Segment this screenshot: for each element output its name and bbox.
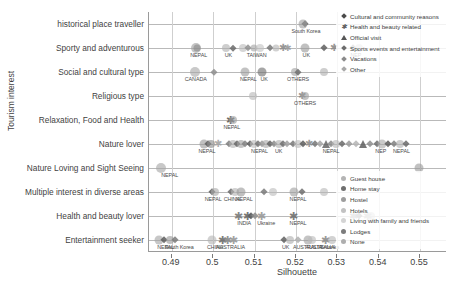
diamond-marker-icon — [339, 44, 348, 53]
point-label-22: NEPAL — [290, 196, 307, 202]
x-axis-tick-label-2: 0.51 — [245, 257, 263, 267]
legend-item-accommodation-type-5[interactable]: Lodges — [339, 226, 455, 237]
point-label-4: UK — [303, 52, 310, 58]
legend-item-purpose-of-visit-4[interactable]: Vacations — [339, 53, 455, 64]
legend-item-label: Other — [350, 65, 365, 74]
legend-item-accommodation-type-2[interactable]: Hostel — [339, 194, 455, 205]
gridline-vertical — [213, 12, 214, 251]
circle-marker-icon — [339, 227, 348, 236]
point-label-9: OTHERS — [287, 76, 309, 82]
circle-marker-icon — [339, 206, 348, 215]
x-axis-tick-label-1: 0.5 — [206, 257, 219, 267]
legend-item-accommodation-type-4[interactable]: Living with family and friends — [339, 215, 455, 226]
point-label-3: TAIWAN — [247, 52, 267, 58]
point-label-25: NEPAL — [290, 220, 307, 226]
y-axis-label-1: Sporty and adventurous — [2, 44, 148, 53]
legend-item-accommodation-type-0[interactable]: Guest house — [339, 173, 455, 184]
gridline-horizontal — [149, 120, 446, 121]
x-axis-tick-label-6: 0.55 — [410, 257, 428, 267]
x-axis-tick-label-4: 0.53 — [328, 257, 346, 267]
legend-item-label: Sports events and entertainment — [350, 44, 439, 53]
point-label-29: AUSTRALIA — [216, 244, 245, 250]
legend-item-label: Health and beauty related — [350, 22, 421, 31]
x-axis-tick-label-0: 0.49 — [162, 257, 180, 267]
star-marker-icon: ✱ — [339, 22, 348, 31]
gridline-horizontal — [149, 168, 446, 169]
legend-item-accommodation-type-1[interactable]: Home stay — [339, 184, 455, 195]
legend-item-label: Hotels — [350, 206, 368, 215]
y-axis-label-0: historical place traveller — [2, 20, 148, 29]
point-label-18: NEPAL — [161, 172, 178, 178]
legend-item-label: Cultural and community reasons — [350, 12, 439, 21]
legend-item-purpose-of-visit-0[interactable]: Cultural and community reasons — [339, 11, 455, 22]
y-axis-label-6: Nature Loving and Sight Seeing — [2, 164, 148, 173]
gridline-vertical — [255, 12, 256, 251]
point-label-23: INDIA — [237, 220, 251, 226]
legend-item-label: Home stay — [350, 184, 380, 193]
point-label-15: NEPAL — [323, 148, 340, 154]
point-label-17: NEPAL — [393, 148, 410, 154]
legend-item-label: Official visit — [350, 33, 381, 42]
y-axis-label-3: Religious type — [2, 92, 148, 101]
y-axis-label-2: Social and cultural type — [2, 68, 148, 77]
point-label-6: CANADA — [185, 76, 207, 82]
point-label-30: UK — [282, 244, 289, 250]
gridline-horizontal — [149, 96, 446, 97]
point-label-19: NEPAL — [205, 196, 222, 202]
legend-item-accommodation-type-6[interactable]: None — [339, 237, 455, 248]
legend-item-label: Guest house — [350, 174, 385, 183]
y-axis-category-labels: historical place travellerSporty and adv… — [0, 0, 148, 252]
legend-purpose-of-visit: Cultural and community reasons✱Health an… — [336, 9, 458, 77]
y-axis-label-5: Nature lover — [2, 140, 148, 149]
point-label-8: UK — [260, 76, 267, 82]
legend-accommodation-type: Guest houseHome stayHostelHotelsLiving w… — [336, 171, 458, 249]
y-axis-label-7: Multiple interest in diverse areas — [2, 188, 148, 197]
legend-item-label: Hostel — [350, 195, 368, 204]
legend-item-purpose-of-visit-2[interactable]: Official visit — [339, 32, 455, 43]
y-axis-label-9: Entertainment seeker — [2, 236, 148, 245]
point-label-11: NEPAL — [223, 124, 240, 130]
circle-marker-icon — [339, 237, 348, 246]
y-axis-label-8: Health and beauty lover — [2, 212, 148, 221]
circle-marker-icon — [339, 174, 348, 183]
legend-item-label: Lodges — [350, 227, 370, 236]
triangle-marker-icon — [339, 33, 348, 42]
point-label-0: South Korea — [291, 28, 320, 34]
legend-item-label: Vacations — [350, 54, 377, 63]
legend-item-label: None — [350, 237, 365, 246]
point-label-24: Ukraine — [257, 220, 275, 226]
x-axis-tick-label-5: 0.54 — [369, 257, 387, 267]
gridline-horizontal — [149, 144, 446, 145]
point-label-21: NEPAL — [236, 196, 253, 202]
scatter-chart: Tourism interest historical place travel… — [0, 0, 459, 282]
point-label-14: UK — [275, 148, 282, 154]
circle-marker-icon — [339, 184, 348, 193]
point-label-13: NEPAL — [251, 148, 268, 154]
circle-marker-icon — [339, 195, 348, 204]
x-axis-tick-label-3: 0.52 — [286, 257, 304, 267]
point-label-33: AUSTRALIA — [305, 244, 334, 250]
gridline-vertical — [172, 12, 173, 251]
point-label-2: UK — [225, 52, 232, 58]
point-label-16: NEP — [375, 148, 386, 154]
legend-item-label: Living with family and friends — [350, 216, 429, 225]
point-label-10: OTHERS — [294, 100, 316, 106]
legend-item-purpose-of-visit-3[interactable]: Sports events and entertainment — [339, 43, 455, 54]
legend-item-purpose-of-visit-5[interactable]: Other — [339, 64, 455, 75]
point-label-27: South Korea — [165, 244, 194, 250]
diamond-marker-icon — [339, 12, 348, 21]
gridline-vertical — [296, 12, 297, 251]
x-axis-tick-labels: 0.490.50.510.520.530.540.55 — [148, 254, 446, 266]
x-axis-title: Silhouette — [148, 267, 446, 277]
circle-marker-icon — [339, 216, 348, 225]
legend-item-accommodation-type-3[interactable]: Hotels — [339, 205, 455, 216]
diamond-marker-icon — [339, 54, 348, 63]
legend-item-purpose-of-visit-1[interactable]: ✱Health and beauty related — [339, 22, 455, 33]
y-axis-label-4: Relaxation, Food and Health — [2, 116, 148, 125]
point-label-7: NEPAL — [240, 76, 257, 82]
point-label-1: NEPAL — [190, 52, 207, 58]
diamond-marker-icon — [339, 65, 348, 74]
point-label-12: NEPAL — [199, 148, 216, 154]
